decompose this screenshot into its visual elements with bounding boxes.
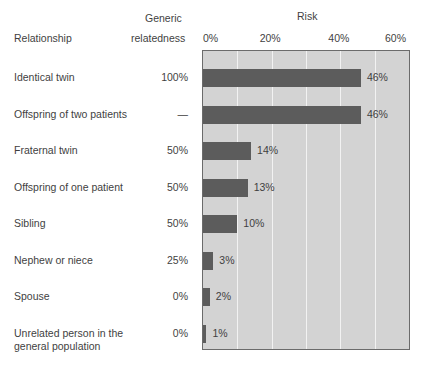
- bar-value-label: 10%: [243, 217, 264, 229]
- chart-title-risk: Risk: [297, 10, 317, 23]
- gridline-40: [340, 51, 341, 349]
- bar: [203, 215, 237, 233]
- bar: [203, 252, 213, 270]
- genetic-relatedness-value: 50%: [146, 144, 188, 156]
- row-label-line: Offspring of two patients: [14, 108, 134, 121]
- risk-by-relationship-chart: Relationship Generic relatedness Risk 0%…: [0, 0, 438, 365]
- gridline-10: [237, 51, 238, 349]
- row-label: Identical twin: [14, 71, 134, 84]
- bar-value-label: 13%: [254, 181, 275, 193]
- plot-area: [202, 50, 410, 350]
- row-label-line: Nephew or niece: [14, 254, 134, 267]
- bar-value-label: 14%: [257, 144, 278, 156]
- genetic-relatedness-value: 0%: [146, 327, 188, 339]
- x-tick-20pct: 20%: [260, 32, 281, 44]
- x-tick-40pct: 40%: [328, 32, 349, 44]
- row-label-line: Unrelated person in the: [14, 327, 134, 340]
- genetic-relatedness-value: —: [146, 108, 188, 120]
- x-tick-60pct: 60%: [385, 32, 406, 44]
- row-label: Nephew or niece: [14, 254, 134, 267]
- bar-value-label: 1%: [212, 327, 227, 339]
- row-label: Offspring of two patients: [14, 108, 134, 121]
- bar: [203, 142, 251, 160]
- column-header-generic-relatedness-line1: Generic: [145, 12, 182, 25]
- gridline-50: [375, 51, 376, 349]
- gridline-30: [306, 51, 307, 349]
- row-label-line: Offspring of one patient: [14, 181, 134, 194]
- row-label: Fraternal twin: [14, 144, 134, 157]
- column-header-relationship: Relationship: [14, 32, 72, 45]
- row-label: Spouse: [14, 290, 134, 303]
- bar: [203, 106, 361, 124]
- genetic-relatedness-value: 50%: [146, 217, 188, 229]
- genetic-relatedness-value: 50%: [146, 181, 188, 193]
- row-label-line: Fraternal twin: [14, 144, 134, 157]
- gridline-20: [272, 51, 273, 349]
- bar-value-label: 46%: [367, 108, 388, 120]
- bar: [203, 325, 206, 343]
- bar: [203, 179, 248, 197]
- genetic-relatedness-value: 100%: [146, 71, 188, 83]
- row-label: Unrelated person in thegeneral populatio…: [14, 327, 134, 353]
- row-label-line: general population: [14, 340, 134, 353]
- row-label: Offspring of one patient: [14, 181, 134, 194]
- column-header-generic-relatedness-line2: relatedness: [131, 32, 185, 45]
- row-label: Sibling: [14, 217, 134, 230]
- x-tick-0pct: 0%: [203, 32, 218, 44]
- bar: [203, 288, 210, 306]
- genetic-relatedness-value: 25%: [146, 254, 188, 266]
- row-label-line: Sibling: [14, 217, 134, 230]
- bar-value-label: 46%: [367, 71, 388, 83]
- row-label-line: Spouse: [14, 290, 134, 303]
- bar-value-label: 3%: [219, 254, 234, 266]
- genetic-relatedness-value: 0%: [146, 290, 188, 302]
- row-label-line: Identical twin: [14, 71, 134, 84]
- bar: [203, 69, 361, 87]
- bar-value-label: 2%: [216, 290, 231, 302]
